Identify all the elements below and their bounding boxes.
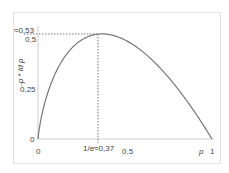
y-tick-0: 0 bbox=[30, 135, 35, 144]
x-tick-0: 0 bbox=[36, 147, 41, 156]
y-tick-max: ≈0,53 bbox=[14, 26, 35, 35]
x-tick-0-5: 0,5 bbox=[122, 147, 134, 156]
x-tick-1: 1 bbox=[210, 147, 215, 156]
x-tick-max: 1/e≈0,37 bbox=[83, 144, 115, 153]
y-axis-label: -p * ld p bbox=[16, 58, 25, 86]
curve-p-ld-p bbox=[38, 34, 212, 139]
x-axis-label: p bbox=[198, 147, 204, 156]
y-tick-0-5: 0,5 bbox=[25, 35, 37, 44]
entropy-chart: ≈0,53 0,5 0,25 0 -p * ld p 0 1/e≈0,37 0,… bbox=[0, 0, 229, 173]
